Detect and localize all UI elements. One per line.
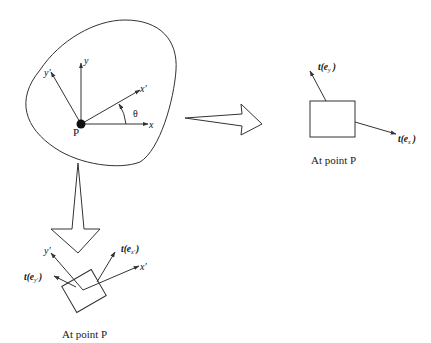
down-block-arrow [51,163,100,253]
traction-ey-arrow [310,71,326,101]
bottom-x-prime-label: x′ [139,261,147,272]
y-axis-label: y [83,55,89,66]
traction-ex-arrow [355,122,396,134]
theta-arc [119,104,126,124]
right-element-square [310,101,355,137]
theta-label: θ [133,108,138,119]
traction-ey-prime-label: t(ey′) [24,272,42,283]
x-prime-axis [81,90,140,124]
bottom-y-prime-axis [51,253,83,290]
right-panel-caption: At point P [311,154,356,166]
point-p-label: P [73,126,79,138]
right-block-arrow [185,104,262,135]
traction-ex-label: t(ex) [398,134,416,145]
x-axis-label: x [148,119,154,130]
traction-ex-prime-label: t(ex′) [121,244,139,255]
rotated-element [62,270,106,313]
y-prime-axis-label: y′ [43,67,51,78]
bottom-y-prime-label: y′ [43,245,51,256]
rotated-element-square [62,270,106,313]
traction-ey-label: t(ey) [318,62,336,73]
body-outline [26,20,176,166]
bottom-panel-caption: At point P [62,328,107,340]
stress-transformation-diagram: P x y x′ y′ θ t(ey) t(ex) At point P y′ … [0,0,431,343]
y-prime-axis [51,72,81,124]
x-prime-axis-label: x′ [139,83,147,94]
